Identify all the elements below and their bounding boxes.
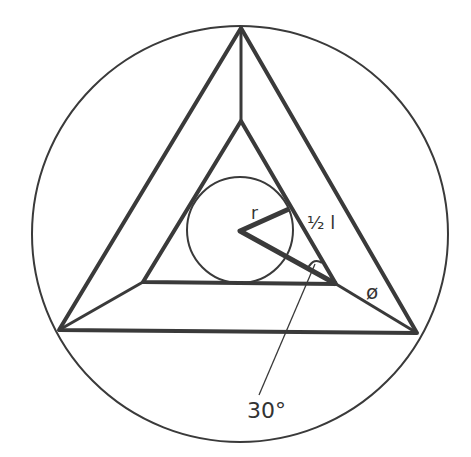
angle-label: 30°	[247, 398, 286, 423]
half-side-label: ½ l	[307, 212, 335, 233]
outer-triangle	[59, 28, 417, 333]
radius-label: r	[251, 203, 258, 223]
diameter-symbol-label: ø	[366, 280, 378, 304]
geometry-diagram: r ½ l 30° ø	[0, 0, 471, 457]
